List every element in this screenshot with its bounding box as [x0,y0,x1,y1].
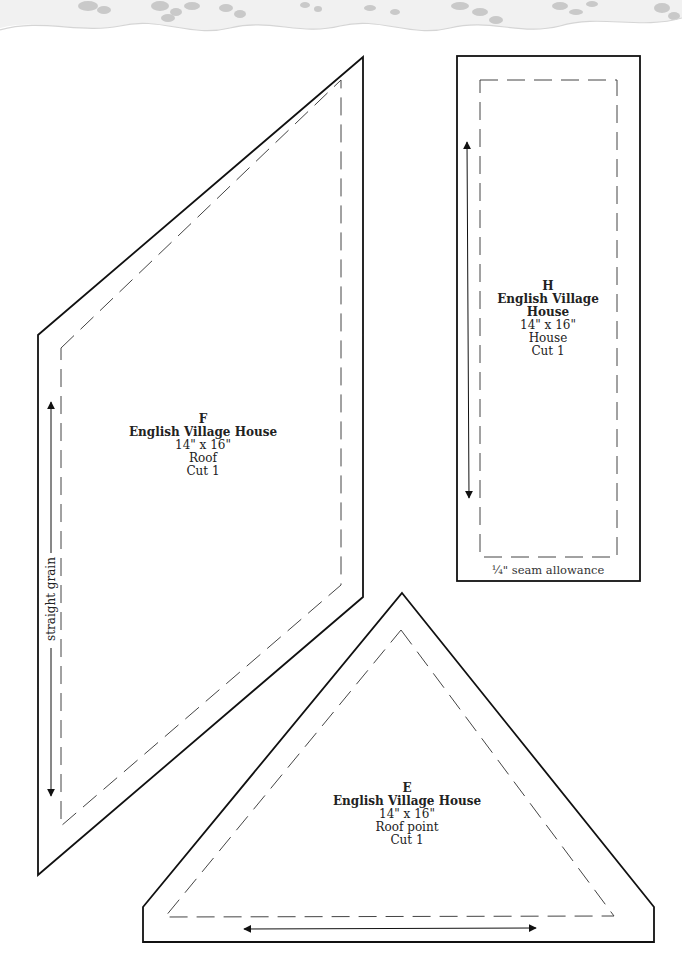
piece-f-grain-label: straight grain [44,553,58,645]
piece-e-cutting-line [143,593,654,942]
piece-f-label: F English Village House 14" x 16" Roof C… [129,413,277,478]
piece-e-grain-arrow [244,928,536,929]
pattern-piece-e [143,593,654,942]
piece-e-label: E English Village House 14" x 16" Roof p… [333,782,481,847]
seam-allowance-note: ¼" seam allowance [492,563,605,577]
piece-h-label: H English Village House 14" x 16" House … [488,280,608,358]
piece-e-cut: Cut 1 [333,834,481,847]
piece-h-title: English Village House [488,293,608,319]
piece-f-cut: Cut 1 [129,465,277,478]
piece-h-grain-arrow [467,142,469,498]
piece-h-cut: Cut 1 [488,345,608,358]
